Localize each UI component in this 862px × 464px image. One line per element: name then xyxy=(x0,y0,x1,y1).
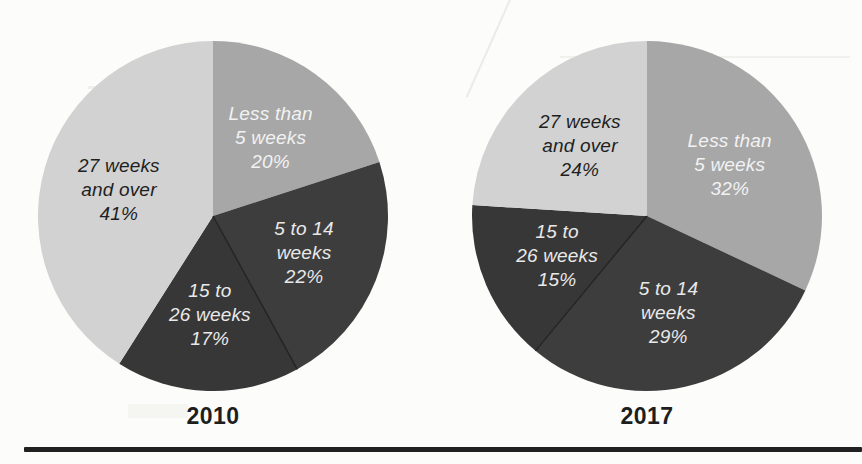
bottom-rule xyxy=(24,447,862,452)
pie-chart-2010: Less than5 weeks20%5 to 14weeks22%15 to2… xyxy=(38,41,388,430)
pie-2010-svg: Less than5 weeks20%5 to 14weeks22%15 to2… xyxy=(38,41,388,391)
chart-title-2010: 2010 xyxy=(38,403,388,430)
scanned-page: Less than5 weeks20%5 to 14weeks22%15 to2… xyxy=(0,0,862,464)
pie-chart-2017: Less than5 weeks32%5 to 14weeks29%15 to2… xyxy=(472,41,822,430)
pie-2017-svg: Less than5 weeks32%5 to 14weeks29%15 to2… xyxy=(472,41,822,391)
chart-title-2017: 2017 xyxy=(472,403,822,430)
